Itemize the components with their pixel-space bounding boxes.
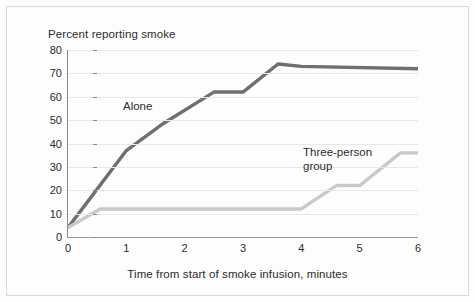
gridline xyxy=(68,144,418,145)
gridline xyxy=(68,97,418,98)
series-label-three-person-group: Three-person group xyxy=(303,146,372,173)
chart-figure: Percent reporting smoke 0102030405060708… xyxy=(0,0,475,302)
x-tick-label: 6 xyxy=(415,242,421,254)
y-tick-mark xyxy=(93,73,97,74)
y-tick-mark xyxy=(93,190,97,191)
y-tick-label: 30 xyxy=(34,161,62,173)
y-axis-ticks: 01020304050607080 xyxy=(30,50,62,237)
gridline xyxy=(68,120,418,121)
x-tick-label: 2 xyxy=(182,242,188,254)
gridline xyxy=(68,214,418,215)
y-tick-mark xyxy=(93,167,97,168)
y-tick-mark xyxy=(93,120,97,121)
x-tick-label: 4 xyxy=(298,242,304,254)
x-axis-line xyxy=(67,237,418,238)
y-tick-mark xyxy=(93,144,97,145)
x-tick-label: 0 xyxy=(65,242,71,254)
y-tick-mark xyxy=(93,237,97,238)
y-tick-label: 80 xyxy=(34,44,62,56)
y-tick-label: 10 xyxy=(34,208,62,220)
y-tick-label: 20 xyxy=(34,184,62,196)
y-tick-mark xyxy=(93,214,97,215)
y-tick-label: 60 xyxy=(34,91,62,103)
y-tick-label: 40 xyxy=(34,138,62,150)
y-tick-label: 70 xyxy=(34,67,62,79)
gridline xyxy=(68,73,418,74)
x-axis-title: Time from start of smoke infusion, minut… xyxy=(0,268,475,280)
plot-area xyxy=(68,50,418,237)
y-tick-label: 50 xyxy=(34,114,62,126)
gridline xyxy=(68,190,418,191)
y-tick-label: 0 xyxy=(34,231,62,243)
x-tick-label: 5 xyxy=(357,242,363,254)
x-axis-ticks: 0123456 xyxy=(68,242,418,258)
y-axis-line xyxy=(67,50,68,238)
y-tick-mark xyxy=(93,97,97,98)
gridline xyxy=(68,50,418,51)
y-axis-title: Percent reporting smoke xyxy=(48,28,176,40)
x-tick-label: 1 xyxy=(123,242,129,254)
y-tick-mark xyxy=(93,50,97,51)
series-label-alone: Alone xyxy=(123,100,152,114)
x-tick-label: 3 xyxy=(240,242,246,254)
